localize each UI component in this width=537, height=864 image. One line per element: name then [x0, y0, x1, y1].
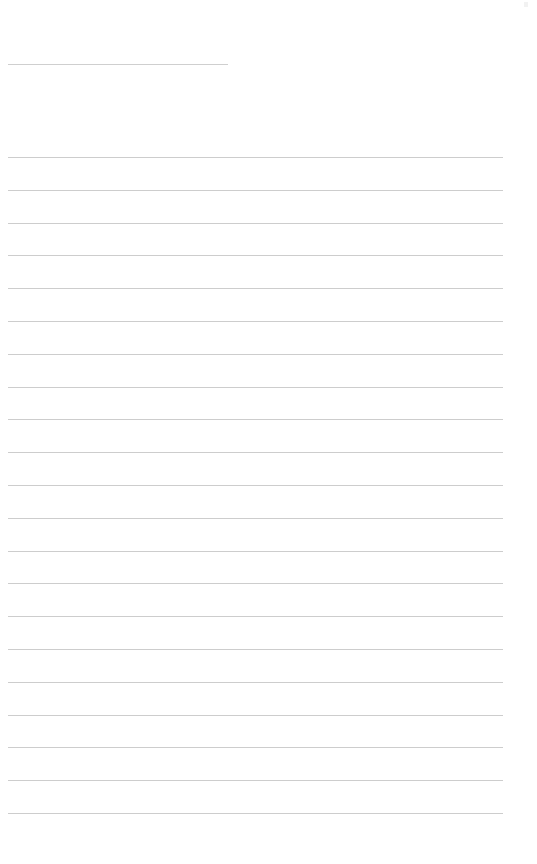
corner-mark: [524, 2, 528, 7]
ruled-line: [8, 288, 503, 289]
ruled-line: [8, 419, 503, 420]
ruled-line: [8, 485, 503, 486]
ruled-line: [8, 190, 503, 191]
ruled-line: [8, 583, 503, 584]
ruled-line: [8, 157, 503, 158]
ruled-line: [8, 223, 503, 224]
ruled-line: [8, 649, 503, 650]
ruled-line: [8, 715, 503, 716]
ruled-line: [8, 551, 503, 552]
ruled-line: [8, 747, 503, 748]
ruled-line: [8, 780, 503, 781]
ruled-line: [8, 452, 503, 453]
ruled-line: [8, 518, 503, 519]
ruled-line: [8, 616, 503, 617]
ruled-line: [8, 682, 503, 683]
title-line: [8, 64, 228, 65]
ruled-line: [8, 321, 503, 322]
ruled-line: [8, 387, 503, 388]
ruled-line: [8, 813, 503, 814]
ruled-line: [8, 354, 503, 355]
ruled-line: [8, 255, 503, 256]
